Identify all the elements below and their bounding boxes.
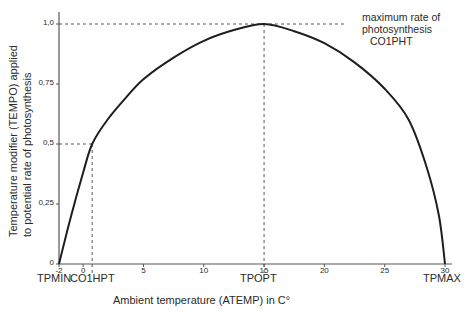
y-tick-label: 0,5: [43, 138, 55, 147]
max-rate-label-line3: CO1PHT: [370, 35, 413, 47]
y-axis-ticks: 00,250,50,751,0: [38, 18, 59, 267]
topt-label: TPOPT: [240, 272, 277, 284]
y-tick-label: 0,75: [38, 78, 54, 87]
co1hpt-label: CO1HPT: [70, 272, 115, 284]
max-rate-label-line2: photosynthesis: [362, 23, 432, 35]
temperature-modifier-chart: 00,250,50,751,0 -2051015202530 TPMIN CO1…: [0, 0, 469, 317]
y-axis-title-line1: Temperature modifier (TEMPO) applied: [7, 45, 19, 237]
x-tick-label: 5: [141, 266, 146, 275]
tempo-curve: [59, 24, 445, 264]
x-tick-label: 20: [320, 266, 329, 275]
x-tick-label: 10: [199, 266, 208, 275]
y-tick-label: 0: [50, 258, 55, 267]
x-tick-label: 25: [380, 266, 389, 275]
max-rate-label-line1: maximum rate of: [362, 11, 440, 23]
reference-lines: [59, 24, 345, 275]
y-axis-title-line2: to potential rate of photosynthesis: [21, 72, 33, 237]
y-tick-label: 0,25: [38, 198, 54, 207]
tpmin-label: TPMIN: [37, 272, 71, 284]
y-tick-label: 1,0: [43, 18, 55, 27]
x-axis-title: Ambient temperature (ATEMP) in C°: [113, 294, 290, 306]
tpmax-label: TPMAX: [423, 272, 462, 284]
